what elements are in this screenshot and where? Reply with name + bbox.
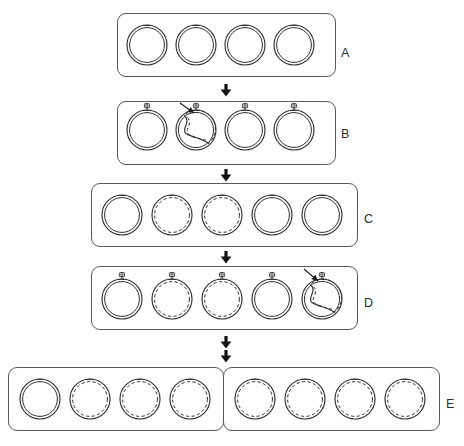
- arrow-a-b-icon: [219, 84, 233, 98]
- chromosome-e-3: [104, 363, 176, 435]
- arrow-c-d-icon: [219, 251, 233, 265]
- ori-pointer-b-1: [170, 93, 204, 123]
- ori-pointer-d-1: [294, 259, 328, 291]
- chromosome-e-4: [154, 363, 226, 435]
- row-label-c: C: [364, 213, 373, 226]
- cell-box-b-1: [117, 101, 336, 165]
- chromosome-c-2: [136, 179, 208, 251]
- cell-box-e-1: [8, 367, 224, 431]
- arrow-b-c-icon: [219, 169, 233, 183]
- chromosome-b-4: [258, 94, 330, 166]
- chromosome-e-8: [369, 363, 441, 435]
- chromosome-c-4: [236, 179, 308, 251]
- chromosome-e-7: [319, 363, 391, 435]
- chromosome-b-1: [111, 94, 183, 166]
- stage-row-c: C: [0, 0, 464, 446]
- arrow-d-e2-icon: [219, 350, 233, 364]
- figure-canvas: ABCDE: [0, 0, 464, 446]
- stage-row-e: E: [0, 0, 464, 446]
- chromosome-c-1: [86, 179, 158, 251]
- chromosome-d-1: [86, 263, 158, 335]
- stage-row-a: A: [0, 0, 464, 446]
- cell-box-d-1: [91, 266, 358, 330]
- row-label-e: E: [446, 398, 455, 411]
- chromosome-e-1: [4, 363, 76, 435]
- cell-box-a-1: [117, 13, 336, 77]
- chromosome-a-2: [160, 9, 232, 81]
- chromosome-d-3: [186, 263, 258, 335]
- row-label-b: B: [341, 128, 350, 141]
- chromosome-c-3: [186, 179, 258, 251]
- chromosome-b-2: [160, 94, 232, 166]
- chromosome-e-6: [269, 363, 341, 435]
- cell-box-c-1: [91, 183, 358, 247]
- chromosome-a-4: [258, 9, 330, 81]
- chromosome-a-3: [209, 9, 281, 81]
- cell-box-e-2: [223, 367, 440, 431]
- chromosome-b-3: [209, 94, 281, 166]
- chromosome-e-2: [54, 363, 126, 435]
- stage-row-d: D: [0, 0, 464, 446]
- row-label-a: A: [341, 47, 350, 60]
- chromosome-e-5: [219, 363, 291, 435]
- chromosome-d-4: [236, 263, 308, 335]
- row-label-d: D: [364, 297, 373, 310]
- stage-row-b: B: [0, 0, 464, 446]
- chromosome-c-5: [286, 179, 358, 251]
- chromosome-d-2: [136, 263, 208, 335]
- chromosome-a-1: [111, 9, 183, 81]
- chromosome-d-5: [286, 263, 358, 335]
- arrow-d-e1-icon: [219, 336, 233, 350]
